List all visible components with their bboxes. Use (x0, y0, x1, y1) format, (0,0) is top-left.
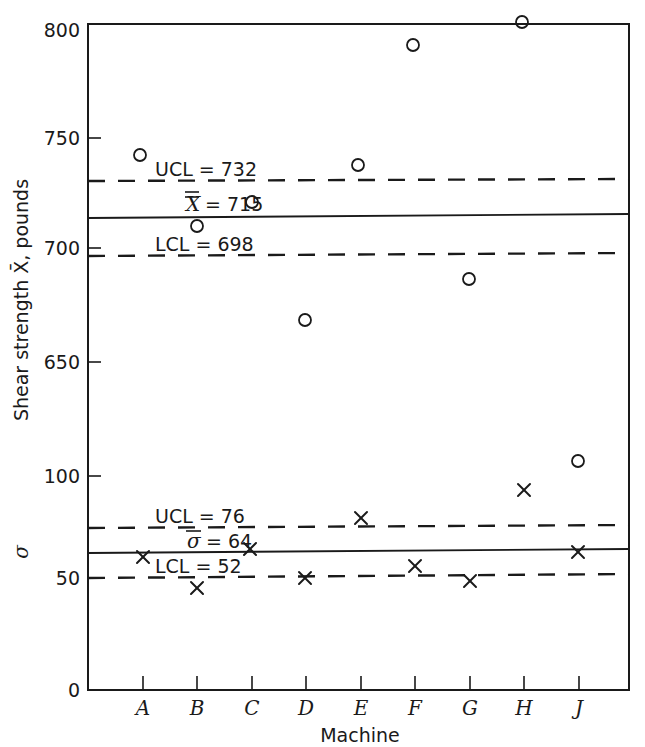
x-label-A: A (134, 696, 150, 720)
data-point-sigma-B (191, 582, 203, 594)
data-point-sigma-J (572, 546, 584, 558)
sigma-center-symbol: σ (187, 529, 202, 553)
y-axis-title: Shear strength X̄, pounds (9, 179, 32, 421)
y-tick-label-800: 800 (44, 19, 80, 41)
data-point-sigma-E (355, 512, 367, 524)
data-point-sigma-H (518, 484, 530, 496)
y-axis-titles: Shear strength X̄, pounds σ (9, 179, 33, 559)
control-chart-svg: 800 750 700 650 100 50 0 Shear strength … (0, 0, 645, 747)
plot-border (88, 24, 629, 690)
x-label-G: G (462, 696, 478, 720)
y-tick-label-700: 700 (44, 237, 80, 259)
data-point-sigma-D (299, 572, 311, 584)
x-label-D: D (297, 696, 314, 720)
x-label-B: B (189, 696, 205, 720)
x-label-C: C (244, 696, 259, 720)
x-label-F: F (407, 696, 423, 720)
data-point-xbar-B (191, 220, 203, 232)
x-axis-title: Machine (320, 724, 400, 746)
sigma-data-points (137, 484, 584, 594)
sigma-lcl-label: LCL = 52 (155, 555, 242, 577)
x-axis-ticks (143, 676, 579, 690)
sigma-center-line (88, 549, 629, 553)
data-point-sigma-G (464, 575, 476, 587)
plot-frame (88, 24, 629, 690)
xbar-ucl-label: UCL = 732 (155, 158, 257, 180)
y-axis-ticks (88, 138, 101, 578)
y-axis-tick-labels: 800 750 700 650 100 50 0 (44, 19, 80, 701)
x-label-J: J (571, 696, 584, 720)
x-label-H: H (514, 696, 533, 720)
y-tick-label-650: 650 (44, 351, 80, 373)
data-point-xbar-H (516, 16, 528, 28)
data-point-xbar-J (572, 455, 584, 467)
data-point-xbar-D (299, 314, 311, 326)
sigma-limit-labels: UCL = 76 σ = 64 LCL = 52 (155, 505, 252, 577)
y-tick-label-750: 750 (44, 127, 80, 149)
xbar-center-symbol: X (184, 192, 201, 216)
sigma-ucl-label: UCL = 76 (155, 505, 245, 527)
data-point-xbar-G (463, 273, 475, 285)
x-label-E: E (353, 696, 369, 720)
xbar-lcl-label: LCL = 698 (155, 233, 254, 255)
y-tick-label-100: 100 (44, 465, 80, 487)
x-axis-category-labels: A B C D E F G H J Machine (134, 696, 584, 746)
y-axis-sigma-title: σ (9, 544, 33, 559)
xbar-center-line (88, 214, 629, 218)
y-tick-label-0: 0 (68, 679, 80, 701)
data-point-xbar-A (134, 149, 146, 161)
y-tick-label-50: 50 (56, 567, 80, 589)
sigma-center-label-group: σ = 64 (186, 529, 252, 553)
data-point-xbar-E (352, 159, 364, 171)
sigma-center-value: = 64 (206, 530, 252, 552)
control-chart-figure: 800 750 700 650 100 50 0 Shear strength … (0, 0, 645, 747)
data-point-xbar-F (407, 39, 419, 51)
data-point-sigma-F (409, 560, 421, 572)
